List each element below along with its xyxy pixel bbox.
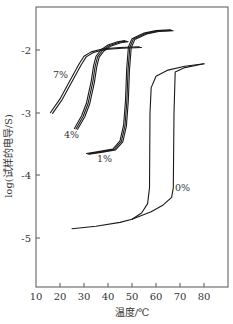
- curve-4: [78, 42, 128, 130]
- y-tick-label: -3: [21, 108, 31, 119]
- y-axis: -2 -3 -4 -5 log(试样的电导/S): [2, 45, 40, 244]
- x-tick-label: 80: [198, 291, 211, 302]
- x-tick-label: 50: [126, 291, 139, 302]
- series-label-4pct: 4%: [64, 129, 79, 140]
- x-axis: 10 20 30 40 50 60 70 80 温度/℃: [30, 283, 211, 318]
- y-tick-label: -5: [21, 233, 31, 244]
- series-label-0pct: 0%: [175, 182, 190, 193]
- curve-0-cooling-branch: [132, 64, 204, 220]
- x-axis-title: 温度/℃: [115, 306, 150, 318]
- series-labels: 7% 4% 1% 0%: [53, 69, 190, 193]
- plot-frame: [36, 7, 228, 287]
- conductance-temperature-chart: -2 -3 -4 -5 log(试样的电导/S) 10 20 30 40 50 …: [0, 0, 233, 324]
- y-tick-label: -2: [21, 45, 31, 56]
- x-tick-label: 10: [30, 291, 43, 302]
- x-tick-label: 30: [78, 291, 91, 302]
- series-label-7pct: 7%: [53, 69, 68, 80]
- series-label-1pct: 1%: [97, 153, 112, 164]
- x-tick-label: 40: [102, 291, 115, 302]
- y-axis-title: log(试样的电导/S): [2, 114, 14, 198]
- x-tick-label: 70: [174, 291, 187, 302]
- y-tick-label: -4: [21, 170, 31, 181]
- x-tick-label: 20: [54, 291, 67, 302]
- x-tick-label: 60: [150, 291, 163, 302]
